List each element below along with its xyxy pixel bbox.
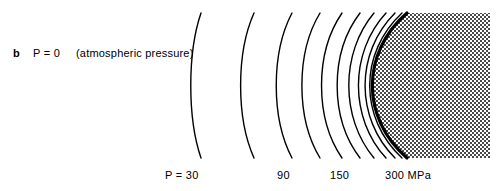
contour-curve bbox=[241, 13, 254, 158]
contour-label-30: P = 30 bbox=[165, 169, 199, 181]
stipple-region bbox=[0, 0, 503, 191]
contour-label-150: 150 bbox=[330, 169, 349, 181]
panel-letter: b bbox=[13, 47, 20, 59]
contour-curve bbox=[191, 13, 201, 158]
contour-curve bbox=[302, 13, 320, 158]
atmospheric-pressure-label: P = 0 bbox=[33, 47, 60, 59]
pressure-contour-figure: b P = 0 (atmospheric pressure) P = 30 90… bbox=[0, 0, 503, 191]
contour-label-300: 300 MPa bbox=[385, 169, 431, 181]
contour-plot bbox=[0, 0, 503, 191]
contour-curve bbox=[276, 13, 292, 158]
contour-label-90: 90 bbox=[277, 169, 290, 181]
contour-curve bbox=[322, 13, 342, 158]
atmospheric-pressure-note: (atmospheric pressure) bbox=[76, 47, 194, 59]
